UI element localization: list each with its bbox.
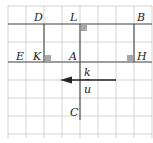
figure-lines bbox=[8, 24, 152, 120]
point-label-A: A bbox=[69, 51, 77, 62]
point-label-B: B bbox=[137, 12, 145, 23]
vector-arrow-accent: → bbox=[84, 77, 90, 84]
right-angle-markers bbox=[45, 25, 133, 61]
point-label-D: D bbox=[34, 12, 43, 23]
vector-label-u: → u bbox=[84, 84, 91, 95]
right-angle-marker-H bbox=[127, 55, 133, 61]
point-label-H: H bbox=[137, 51, 147, 62]
point-label-K: K bbox=[33, 51, 41, 62]
point-label-C: C bbox=[70, 107, 78, 118]
vector-u-text: u bbox=[84, 83, 91, 96]
right-angle-marker-K bbox=[45, 55, 51, 61]
point-label-L: L bbox=[70, 12, 77, 23]
point-label-E: E bbox=[16, 51, 24, 62]
right-angle-marker-L bbox=[81, 25, 87, 31]
